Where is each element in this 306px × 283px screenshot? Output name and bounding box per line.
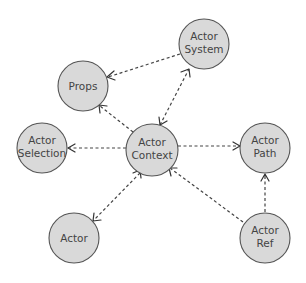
node-actor-selection: Actor Selection — [17, 123, 67, 173]
node-label: Props — [69, 80, 98, 92]
node-label: Ref — [257, 237, 274, 249]
node-label: Path — [253, 147, 276, 159]
node-label: Actor — [60, 232, 88, 244]
actor-relationship-diagram: Props Actor System Actor Selection Actor… — [0, 0, 306, 283]
node-label: Actor — [190, 30, 218, 42]
node-label: System — [184, 43, 223, 55]
node-actor-path: Actor Path — [240, 123, 290, 173]
node-label: Actor — [251, 224, 279, 236]
node-label: Actor — [28, 134, 56, 146]
edge-actor-system-to-props — [107, 54, 180, 80]
arrowhead-icon — [99, 105, 107, 113]
node-actor: Actor — [49, 213, 99, 263]
edge-actor-context-to-actor-path — [178, 142, 240, 150]
node-actor-ref: Actor Ref — [240, 213, 290, 263]
edge-actor-context-to-actor-selection — [68, 144, 126, 152]
node-label: Actor — [138, 136, 166, 148]
node-actor-context: Actor Context — [126, 124, 178, 176]
edge-actor-context-actor — [93, 170, 141, 221]
node-label: Selection — [18, 147, 66, 159]
node-actor-system: Actor System — [179, 19, 229, 69]
edge-actor-ref-to-actor-path — [261, 174, 269, 212]
edge-actor-ref-to-actor-context — [169, 168, 243, 222]
node-label: Context — [131, 149, 172, 161]
edge-actor-context-actor-system — [159, 69, 190, 125]
node-props: Props — [58, 61, 108, 111]
node-label: Actor — [251, 134, 279, 146]
edge-actor-context-to-props — [99, 105, 133, 132]
